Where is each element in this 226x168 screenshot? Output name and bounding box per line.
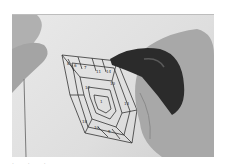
photo: 867 111410 12113 18105 [12, 14, 214, 157]
svg-text:14: 14 [106, 69, 112, 74]
svg-text:10: 10 [94, 125, 100, 130]
svg-text:11: 11 [96, 69, 102, 74]
svg-text:12: 12 [85, 85, 91, 90]
caption: . . . [12, 158, 214, 168]
left-hand-fingers [12, 15, 48, 157]
svg-text:1: 1 [100, 99, 103, 104]
right-hand-with-marker [110, 29, 214, 157]
svg-text:10: 10 [110, 81, 116, 86]
svg-text:18: 18 [82, 119, 88, 124]
photo-illustration: 867 111410 12113 18105 [12, 15, 214, 157]
svg-text:7: 7 [84, 65, 87, 70]
svg-text:13: 13 [124, 101, 130, 106]
svg-text:5: 5 [108, 129, 111, 134]
